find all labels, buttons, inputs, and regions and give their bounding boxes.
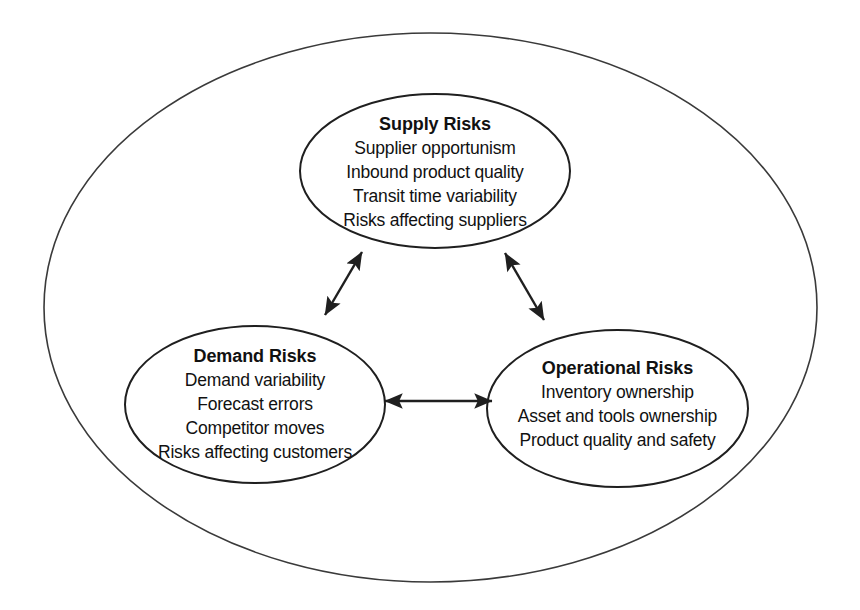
supply-risks-item-1: Supplier opportunism [300, 136, 570, 160]
operational-risks-item-1: Inventory ownership [487, 380, 748, 404]
operational-risks-label-group: Operational Risks Inventory ownership As… [487, 356, 748, 452]
operational-risks-item-3: Product quality and safety [487, 428, 748, 452]
demand-risks-item-1: Demand variability [125, 368, 385, 392]
demand-risks-item-2: Forecast errors [125, 392, 385, 416]
diagram-canvas [0, 0, 860, 610]
supply-risks-item-2: Inbound product quality [300, 160, 570, 184]
risk-diagram: Supply Risks Supplier opportunism Inboun… [0, 0, 860, 610]
supply-risks-label-group: Supply Risks Supplier opportunism Inboun… [300, 112, 570, 232]
supply-risks-item-4: Risks affecting suppliers [300, 208, 570, 232]
supply-risks-item-3: Transit time variability [300, 184, 570, 208]
demand-risks-item-4: Risks affecting customers [125, 440, 385, 464]
demand-risks-title: Demand Risks [125, 344, 385, 368]
demand-risks-item-3: Competitor moves [125, 416, 385, 440]
operational-risks-title: Operational Risks [487, 356, 748, 380]
operational-risks-item-2: Asset and tools ownership [487, 404, 748, 428]
connector-supply-operational [505, 253, 544, 320]
connector-demand-supply [325, 252, 362, 315]
supply-risks-title: Supply Risks [300, 112, 570, 136]
demand-risks-label-group: Demand Risks Demand variability Forecast… [125, 344, 385, 464]
